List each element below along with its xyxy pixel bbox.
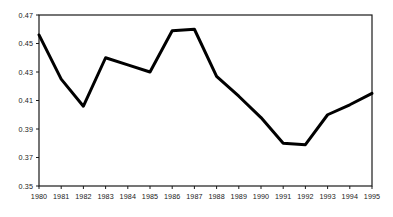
y-tick-label: 0.43 <box>19 68 33 77</box>
x-tick-label: 1982 <box>75 192 91 201</box>
x-tick-label: 1992 <box>297 192 313 201</box>
x-tick-label: 1987 <box>186 192 202 201</box>
x-tick-label: 1985 <box>142 192 158 201</box>
x-tick-label: 1984 <box>120 192 136 201</box>
y-tick-label: 0.39 <box>19 125 33 134</box>
y-tick-label: 0.37 <box>19 153 33 162</box>
x-tick-label: 1983 <box>97 192 113 201</box>
line-chart: 0.350.370.390.410.430.450.47 19801981198… <box>0 0 393 217</box>
x-tick-label: 1995 <box>364 192 380 201</box>
y-tick-label: 0.41 <box>19 96 33 105</box>
y-tick-label: 0.45 <box>19 39 33 48</box>
x-tick-label: 1988 <box>208 192 224 201</box>
y-tick-label: 0.35 <box>19 182 33 191</box>
x-tick-label: 1986 <box>164 192 180 201</box>
x-tick-label: 1980 <box>31 192 47 201</box>
x-tick-label: 1991 <box>275 192 291 201</box>
y-tick-label: 0.47 <box>19 11 33 20</box>
x-tick-label: 1989 <box>231 192 247 201</box>
chart-canvas: 0.350.370.390.410.430.450.47 19801981198… <box>0 0 393 217</box>
x-tick-label: 1994 <box>342 192 358 201</box>
x-tick-label: 1990 <box>253 192 269 201</box>
x-tick-label: 1981 <box>53 192 69 201</box>
x-tick-label: 1993 <box>319 192 335 201</box>
